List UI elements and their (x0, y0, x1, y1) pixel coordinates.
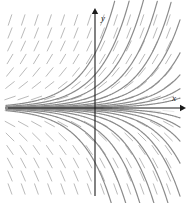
slope-dash (8, 41, 13, 51)
slope-dash (47, 171, 51, 181)
slope-dash (127, 184, 131, 194)
slope-dash (153, 184, 157, 194)
slope-dash (166, 54, 172, 63)
slope-dash (46, 68, 53, 77)
slope-dash (98, 82, 107, 89)
slope-dash (100, 158, 105, 168)
slope-dash (7, 54, 13, 63)
slope-dash (46, 145, 52, 154)
slope-dash (59, 68, 66, 77)
slope-dash (113, 158, 118, 168)
slope-dash (33, 68, 40, 77)
slope-dash (32, 133, 40, 141)
slope-dash (61, 171, 65, 181)
slope-dash (34, 28, 38, 38)
slope-dash (60, 158, 65, 168)
solution-curve (6, 108, 171, 203)
slope-dash (5, 96, 15, 100)
slope-dash (87, 15, 90, 25)
slope-dash (166, 28, 170, 38)
slope-dash (167, 184, 171, 194)
slope-dash (32, 82, 41, 89)
slope-dash (166, 171, 170, 181)
slope-dash (74, 41, 79, 51)
slope-dash (18, 96, 28, 100)
slope-dash (8, 15, 11, 25)
slope-dash (34, 171, 38, 181)
slope-dash (164, 133, 172, 141)
slope-dash (48, 184, 52, 194)
slope-dash (139, 54, 145, 63)
slope-dash (19, 133, 27, 141)
slope-dash (34, 54, 40, 63)
solution-curve (6, 111, 115, 203)
slope-dash (114, 184, 118, 194)
slope-dash (47, 41, 52, 51)
slope-dash (87, 184, 91, 194)
slope-dash (73, 68, 80, 77)
slope-dash (74, 184, 78, 194)
slope-dash (21, 171, 25, 181)
slope-dash (152, 54, 158, 63)
slope-dash (125, 68, 132, 77)
slope-dash (60, 145, 66, 154)
slope-dash (5, 121, 15, 126)
slope-dash (20, 68, 27, 77)
slope-dash (21, 15, 24, 25)
slope-dash (47, 158, 52, 168)
slope-dash (46, 133, 54, 141)
slope-dash (74, 15, 77, 25)
slope-dash (140, 184, 144, 194)
slope-dash (126, 158, 131, 168)
slope-dash (59, 133, 67, 141)
slope-dash (21, 184, 25, 194)
slope-dash (137, 121, 147, 126)
slope-dash (61, 184, 65, 194)
slope-dash (87, 28, 91, 38)
slope-dash (140, 15, 143, 25)
axis-arrowhead (92, 8, 98, 14)
slope-dash (84, 121, 94, 126)
axis-arrowhead (180, 105, 186, 111)
slope-dash (126, 145, 132, 154)
slope-dash (74, 171, 78, 181)
slope-dash (125, 133, 133, 141)
slope-dash (153, 28, 157, 38)
slope-dash (35, 15, 38, 25)
plot-canvas: x y (0, 0, 190, 203)
slope-dash (152, 68, 159, 77)
slope-dash (127, 28, 131, 38)
slope-dash (18, 121, 28, 126)
slope-dash (152, 145, 158, 154)
slope-dash (6, 133, 14, 141)
slope-dash (47, 54, 53, 63)
slope-dash (20, 145, 26, 154)
solution-curve (6, 1, 115, 105)
slope-dash (61, 28, 65, 38)
slope-dash (60, 41, 65, 51)
slope-dash (7, 68, 14, 77)
slope-dash (87, 171, 91, 181)
slope-dash (113, 41, 118, 51)
slope-dash (73, 158, 78, 168)
slope-dash (86, 68, 93, 77)
slope-dash (45, 121, 55, 126)
slope-dash (20, 54, 26, 63)
slope-dash (87, 41, 92, 51)
slope-dash (21, 41, 26, 51)
slope-dash (8, 184, 12, 194)
slope-dash (138, 82, 147, 89)
slope-dash (7, 145, 13, 154)
slope-field-figure: x y (0, 0, 190, 203)
slope-dash (48, 28, 52, 38)
slope-dash (8, 28, 12, 38)
slope-dash (87, 158, 92, 168)
y-axis-label: y (100, 13, 105, 23)
slope-dash (140, 28, 144, 38)
slope-dash (19, 82, 28, 89)
slope-dash (8, 171, 12, 181)
slope-dash (113, 54, 119, 63)
slope-dash (45, 82, 54, 89)
slope-dash (60, 54, 66, 63)
slope-dash (73, 54, 79, 63)
